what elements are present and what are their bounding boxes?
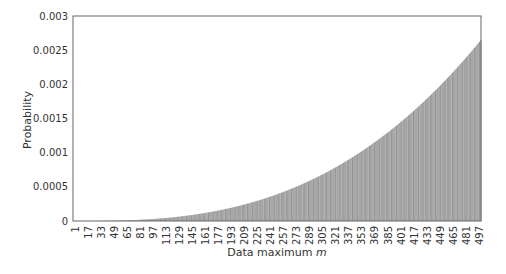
x-axis-title-text: Data maximum — [227, 246, 312, 259]
x-tick-label: 257 — [278, 226, 289, 245]
x-tick-label: 401 — [396, 226, 407, 245]
x-tick-label: 353 — [356, 226, 367, 245]
x-tick-label: 273 — [291, 226, 302, 245]
x-tick-label: 465 — [448, 226, 459, 245]
x-tick-label: 161 — [200, 226, 211, 245]
x-tick-label: 337 — [343, 226, 354, 245]
x-tick-label: 481 — [461, 226, 472, 245]
y-tick-label: 0.001 — [39, 147, 68, 158]
x-tick-label: 417 — [409, 226, 420, 245]
y-tick-label: 0.0015 — [33, 113, 68, 124]
x-tick-label: 449 — [435, 226, 446, 245]
x-tick-label: 241 — [265, 226, 276, 245]
y-tick-label: 0.003 — [39, 11, 68, 22]
x-tick-label: 81 — [135, 226, 146, 239]
probability-bar-chart: 00.00050.0010.00150.0020.00250.003 11733… — [0, 0, 506, 274]
x-axis-title-var: m — [316, 246, 327, 259]
x-tick-label: 385 — [383, 226, 394, 245]
x-tick-label: 113 — [161, 226, 172, 245]
x-tick-label: 177 — [213, 226, 224, 245]
x-tick-label: 145 — [187, 226, 198, 245]
x-tick-label: 497 — [474, 226, 485, 245]
y-axis-title: Probability — [21, 90, 34, 149]
x-tick-label: 49 — [109, 226, 120, 239]
x-tick-label: 289 — [304, 226, 315, 245]
x-tick-label: 209 — [239, 226, 250, 245]
x-tick-label: 369 — [369, 226, 380, 245]
x-tick-label: 65 — [122, 226, 133, 239]
x-tick-label: 33 — [96, 226, 107, 239]
y-tick-label: 0.0005 — [33, 181, 68, 192]
y-axis: 00.00050.0010.00150.0020.00250.003 — [33, 11, 68, 227]
x-tick-label: 1 — [70, 226, 81, 232]
x-tick-label: 321 — [330, 226, 341, 245]
x-tick-label: 193 — [226, 226, 237, 245]
x-tick-label: 225 — [252, 226, 263, 245]
bars-series — [83, 40, 482, 221]
x-tick-label: 97 — [148, 226, 159, 239]
x-tick-label: 433 — [422, 226, 433, 245]
y-tick-label: 0.0025 — [33, 45, 68, 56]
x-tick-label: 305 — [317, 226, 328, 245]
y-tick-label: 0.002 — [39, 79, 68, 90]
x-tick-label: 17 — [83, 226, 94, 239]
x-axis-title: Data maximum m — [227, 246, 326, 259]
y-tick-label: 0 — [62, 216, 68, 227]
x-axis: 1173349658197113129145161177193209225241… — [70, 226, 485, 245]
x-tick-label: 129 — [174, 226, 185, 245]
